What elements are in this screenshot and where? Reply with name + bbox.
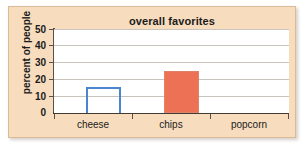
gridline-50 <box>54 29 289 30</box>
gridline-30 <box>54 62 289 63</box>
y-tick-label-30: 30 <box>22 58 46 68</box>
y-tick-label-20: 20 <box>22 75 46 85</box>
y-tick-label-50: 50 <box>22 25 46 35</box>
y-tick-label-10: 10 <box>22 92 46 102</box>
bar-chips <box>164 71 199 113</box>
chart-panel: overall favorites percent of people 50 4… <box>8 6 296 138</box>
chart-title: overall favorites <box>55 15 289 27</box>
x-tick-label-chips: chips <box>132 119 210 130</box>
x-tick-label-cheese: cheese <box>54 119 132 130</box>
y-tick-mark-50 <box>49 29 53 30</box>
y-tick-label-0: 0 <box>22 108 46 118</box>
y-tick-label-40: 40 <box>22 41 46 51</box>
plot-area <box>54 29 289 113</box>
x-tick-mark-3 <box>288 114 289 119</box>
bar-cheese <box>86 87 121 113</box>
x-tick-label-popcorn: popcorn <box>210 119 288 130</box>
gridline-40 <box>54 45 289 46</box>
chart-figure: overall favorites percent of people 50 4… <box>0 0 306 150</box>
y-tick-mark-40 <box>49 45 53 46</box>
y-tick-mark-30 <box>49 62 53 63</box>
y-tick-mark-20 <box>49 79 53 80</box>
y-tick-mark-10 <box>49 96 53 97</box>
